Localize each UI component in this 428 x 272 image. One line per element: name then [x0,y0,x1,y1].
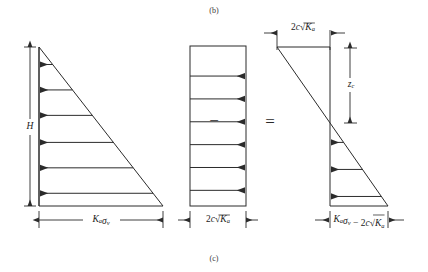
height-label: H [26,121,35,131]
equals-operator: = [265,112,275,131]
pressure-arrow-group-triangle [40,64,153,193]
net-pressure-diagonal [277,47,388,206]
net-base-label: Kaσv − 2c√Ka [332,214,384,229]
panel-cohesion-rectangle: 2c√Ka [178,46,258,228]
earth-pressure-figure: (b) H Kaσv − [0,0,428,272]
pressure-arrow-group-rectangle [190,76,245,190]
panel-active-pressure-triangle: H Kaσv [24,47,163,228]
minus-operator: − [209,111,219,130]
bottom-caption: (c) [210,254,219,263]
pressure-triangle-outline [39,47,163,206]
figure-container: (b) H Kaσv − [0,0,428,272]
top-caption: (b) [209,6,219,15]
net-top-label: 2c√Ka [291,22,315,32]
pressure-arrow-group-net [331,142,381,196]
panel-net-pressure-diagram: 2c√Ka zc Kaσv − 2c√Ka [264,22,404,229]
cohesion-base-label: 2c√Ka [206,214,230,224]
